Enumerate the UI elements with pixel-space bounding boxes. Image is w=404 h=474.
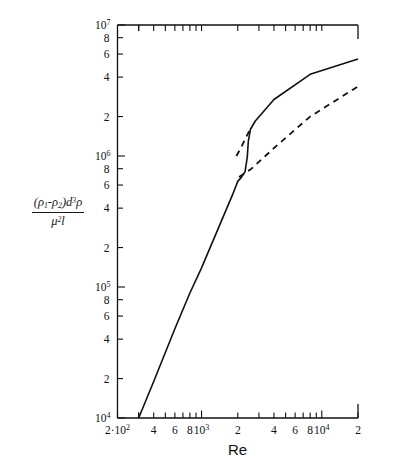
x-tick-label: 2 — [355, 424, 361, 436]
y-axis-label-numerator: (ρ1-ρ2)d3ρ — [32, 195, 84, 213]
y-tick-label: 106 — [95, 149, 111, 163]
y-tick-label: 2 — [104, 373, 110, 385]
y-tick-label: 2 — [104, 111, 110, 123]
y-axis-label: (ρ1-ρ2)d3ρ μ2l — [8, 192, 108, 228]
y-tick-label: 6 — [104, 310, 110, 322]
x-tick-label: 4 — [151, 424, 157, 436]
x-tick-label: 6 — [172, 424, 178, 436]
figure-container: (ρ1-ρ2)d3ρ μ2l Re 1042468105246810624681… — [0, 0, 404, 474]
y-tick-label: 6 — [104, 179, 110, 191]
y-tick-label: 105 — [95, 280, 111, 294]
x-tick-label: 8 — [187, 424, 193, 436]
x-tick-label: 104 — [314, 423, 330, 437]
y-tick-label: 4 — [104, 333, 110, 345]
y-tick-label: 8 — [104, 163, 110, 175]
y-tick-label: 8 — [104, 294, 110, 306]
y-tick-label: 2 — [104, 242, 110, 254]
x-tick-label: 4 — [271, 424, 277, 436]
y-tick-label: 6 — [104, 48, 110, 60]
y-axis-label-denominator: μ2l — [8, 213, 108, 228]
x-tick-label: 8 — [307, 424, 313, 436]
x-tick-label: 103 — [194, 423, 210, 437]
x-tick-label: 6 — [292, 424, 298, 436]
y-tick-label: 4 — [104, 71, 110, 83]
x-axis-label: Re — [117, 441, 358, 458]
x-tick-label: 2 — [235, 424, 241, 436]
y-tick-label: 104 — [95, 411, 111, 425]
chart-plot-area: 1042468105246810624681072·10246810324681… — [0, 0, 404, 474]
y-tick-label: 8 — [104, 32, 110, 44]
series-solid-curve — [139, 59, 358, 418]
series-dashed-line-lower — [239, 86, 358, 177]
x-tick-label: 2·102 — [105, 423, 130, 437]
y-tick-label: 107 — [95, 18, 111, 32]
